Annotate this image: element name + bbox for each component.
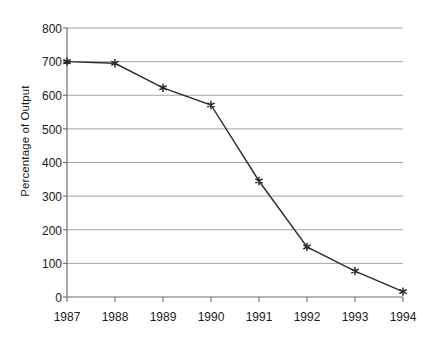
x-axis-ticks bbox=[67, 297, 403, 302]
data-point-marker bbox=[351, 267, 358, 275]
data-point-marker bbox=[399, 287, 406, 295]
data-series-line bbox=[67, 62, 403, 292]
data-point-marker bbox=[159, 84, 166, 92]
plot-area bbox=[0, 0, 433, 342]
gridlines bbox=[67, 28, 403, 263]
line-chart: Percentage of Output 0 100 200 300 400 5… bbox=[0, 0, 433, 342]
data-point-markers bbox=[63, 57, 406, 295]
